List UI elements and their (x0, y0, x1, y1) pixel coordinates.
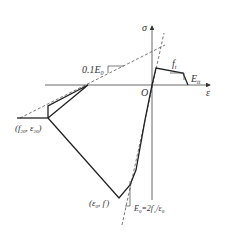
ett-label: Ett (190, 73, 201, 85)
peak-point-label: (ε0, f') (89, 198, 109, 209)
sigma-label: σ (142, 22, 148, 33)
origin-label: O (141, 87, 148, 98)
tenth-modulus-label: 0.1E0 (82, 64, 104, 76)
residual-point-label: (f20, ε20) (15, 123, 42, 134)
tenth-modulus-dashed-line (20, 45, 165, 118)
residual-curve (48, 85, 88, 118)
ft-label: ft (172, 58, 177, 70)
initial-modulus-label: E0=2f'c/ε0 (133, 204, 165, 214)
ft-slope-triangle (170, 73, 184, 80)
stress-strain-diagram: σ ε O ft Ett 0.1E0 (f20, ε20) (ε0, f') E… (0, 0, 226, 234)
tension-curve (152, 68, 188, 85)
compression-curve (48, 85, 152, 198)
epsilon-label: ε (206, 87, 210, 98)
